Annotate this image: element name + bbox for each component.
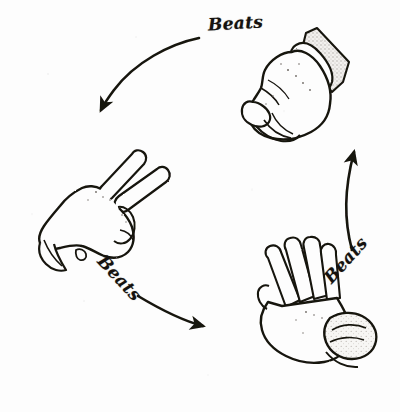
arrow-label-rock-beats-scissors: Beats bbox=[208, 12, 264, 35]
arrow-scissors-beats-paper bbox=[138, 296, 203, 326]
closed-fist-rock-hand bbox=[242, 28, 349, 141]
rock-paper-scissors-figure: Beats Beats Beats bbox=[0, 0, 400, 412]
figure-artwork bbox=[0, 0, 400, 412]
arrow-rock-beats-scissors bbox=[101, 38, 199, 110]
